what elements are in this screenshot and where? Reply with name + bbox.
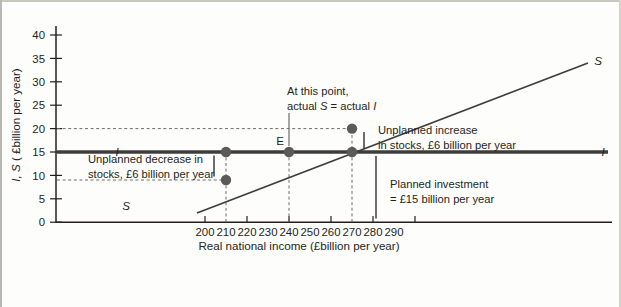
svg-text:I, S ( £billion per year): I, S ( £billion per year) <box>9 68 22 182</box>
equilibrium-note-eq: = actual <box>327 100 373 112</box>
y-tick-label-30: 30 <box>32 76 45 88</box>
annotation-equilibrium-note: At this point, actual S = actual I <box>287 85 376 112</box>
saving-line-S <box>197 63 588 213</box>
x-tick-label-280: 280 <box>363 226 382 238</box>
y-tick-label-10: 10 <box>32 170 45 182</box>
saving-label-left: S <box>122 199 130 212</box>
axes <box>56 26 612 223</box>
unplanned-increase-line1: Unplanned increase <box>378 124 478 136</box>
x-tick-label-220: 220 <box>237 226 256 238</box>
unplanned-increase-line2: in stocks, £6 billion per year <box>378 139 516 151</box>
y-tick-label-15: 15 <box>32 146 45 158</box>
y-axis-tick-labels: 0 5 10 15 20 25 30 35 40 <box>32 29 45 228</box>
equilibrium-point-label: E <box>276 134 284 147</box>
y-axis-title-units: ( £billion per year) <box>9 68 22 164</box>
x-axis-title: Real national income (£billion per year) <box>198 239 399 252</box>
y-axis-title-symbols: I, S <box>9 164 22 182</box>
x-tick-label-200: 200 <box>195 226 214 238</box>
y-tick-label-5: 5 <box>39 193 45 205</box>
y-tick-label-20: 20 <box>32 123 45 135</box>
figure-page: 0 5 10 15 20 25 30 35 40 200 2 <box>0 0 621 307</box>
unplanned-decrease-line2: stocks, £6 billion per year <box>88 168 215 180</box>
annotation-planned-investment: Planned investment = £15 billion per yea… <box>390 178 494 205</box>
annotation-unplanned-decrease: Unplanned decrease in stocks, £6 billion… <box>88 153 215 180</box>
x-tick-label-260: 260 <box>321 226 340 238</box>
figure-caption: Figure 16.4 Planned and actual rates of … <box>0 252 621 307</box>
x-axis-tick-labels: 200 210 220 230 240 250 260 270 280 290 <box>195 226 403 238</box>
point-saving-at-270 <box>347 123 357 133</box>
annotation-unplanned-increase: Unplanned increase in stocks, £6 billion… <box>378 124 516 151</box>
y-tick-label-35: 35 <box>32 53 45 65</box>
y-tick-label-40: 40 <box>32 29 45 41</box>
y-tick-label-0: 0 <box>39 216 45 228</box>
x-tick-label-250: 250 <box>300 226 319 238</box>
x-tick-label-210: 210 <box>216 226 235 238</box>
planned-investment-line2: = £15 billion per year <box>390 193 494 205</box>
point-investment-at-270 <box>347 147 357 157</box>
saving-investment-chart: 0 5 10 15 20 25 30 35 40 200 2 <box>0 0 621 252</box>
x-tick-label-290: 290 <box>384 226 403 238</box>
unplanned-decrease-line1: Unplanned decrease in <box>88 153 203 165</box>
equilibrium-note-I: I <box>373 100 376 112</box>
planned-investment-line1: Planned investment <box>390 178 489 190</box>
point-equilibrium-E <box>284 147 294 157</box>
point-saving-at-210 <box>221 175 231 185</box>
saving-label-right: S <box>594 54 602 67</box>
x-tick-label-240: 240 <box>279 226 298 238</box>
chart-area: 0 5 10 15 20 25 30 35 40 200 2 <box>0 0 621 252</box>
x-tick-label-270: 270 <box>342 226 361 238</box>
equilibrium-note-actual1: actual <box>287 100 320 112</box>
x-axis-ticks <box>205 216 415 222</box>
y-axis-title: I, S ( £billion per year) <box>9 68 22 182</box>
equilibrium-note-line2: actual S = actual I <box>287 100 376 112</box>
y-tick-label-25: 25 <box>32 99 45 111</box>
point-investment-at-210 <box>221 147 231 157</box>
equilibrium-note-line1: At this point, <box>287 85 349 97</box>
x-tick-label-230: 230 <box>258 226 277 238</box>
